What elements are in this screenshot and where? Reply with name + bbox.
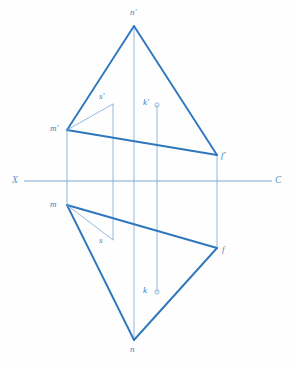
edge-m-s xyxy=(67,205,113,240)
figure-edges-group xyxy=(67,26,217,340)
geometry-canvas xyxy=(0,0,291,365)
point-label-k-prime: k' xyxy=(143,98,149,107)
point-label-m: m xyxy=(50,200,57,209)
point-label-m-prime: m' xyxy=(50,124,58,133)
edge-mprime-sprime xyxy=(67,104,113,130)
edge-nprime-fprime xyxy=(134,26,217,155)
point-label-f: f xyxy=(222,245,225,254)
axis-label-x: X xyxy=(12,176,18,186)
point-label-n-prime: n' xyxy=(130,8,136,17)
point-label-s-prime: s' xyxy=(99,92,104,101)
axis-label-c: C xyxy=(275,176,281,186)
point-label-k: k xyxy=(143,286,147,295)
point-label-f-prime: f' xyxy=(221,151,225,160)
point-label-n: n xyxy=(130,345,135,354)
projector-lines-group xyxy=(67,26,217,340)
point-label-s: s xyxy=(99,236,103,245)
edge-mprime-fprime xyxy=(67,130,217,155)
edge-m-f xyxy=(67,205,217,248)
edge-m-n xyxy=(67,205,134,340)
edge-nprime-mprime xyxy=(67,26,134,130)
geometry-figure: X C n'm'f's'k'msfkn xyxy=(0,0,291,365)
